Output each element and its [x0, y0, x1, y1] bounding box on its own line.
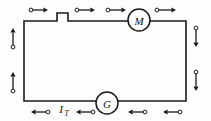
arrow-tail-dot [11, 89, 15, 93]
circuit-component-group: MG [96, 9, 150, 114]
current-arrow-right-1 [193, 70, 198, 91]
arrow-tail-dot [143, 110, 147, 114]
total-current-label: IT [58, 103, 69, 118]
arrow-tail-dot [29, 8, 33, 12]
total-current-base: I [58, 103, 64, 115]
circuit-canvas: MG IT [0, 0, 211, 121]
generator-symbol: G [96, 92, 118, 114]
arrow-head [90, 7, 95, 12]
current-arrow-bottom-3 [163, 109, 182, 114]
current-arrow-left-1 [10, 72, 15, 93]
current-arrow-bottom-0 [31, 109, 50, 114]
motor-label: M [133, 15, 144, 27]
total-current-subscript: T [65, 109, 70, 118]
generator-label: G [103, 98, 111, 110]
arrow-head [121, 7, 126, 12]
arrow-tail-dot [91, 110, 95, 114]
current-arrow-top-3 [155, 7, 176, 12]
arrow-head [43, 7, 48, 12]
arrow-head [10, 28, 15, 33]
arrow-tail-dot [46, 110, 50, 114]
arrow-head [193, 86, 198, 91]
current-arrow-top-0 [29, 7, 48, 12]
arrow-tail-dot [75, 8, 79, 12]
arrow-tail-dot [11, 45, 15, 49]
loop-wire-path [24, 13, 186, 101]
arrow-tail-dot [194, 26, 198, 30]
arrow-head [76, 109, 81, 114]
current-arrow-left-0 [10, 28, 15, 49]
arrow-tail-dot [106, 8, 110, 12]
current-arrow-bottom-1 [76, 109, 95, 114]
arrow-tail-dot [178, 110, 182, 114]
arrow-tail-dot [155, 8, 159, 12]
circuit-wire-loop [24, 13, 186, 101]
circuit-diagram-figure: MG IT [0, 0, 211, 121]
current-arrow-right-0 [193, 26, 198, 47]
motor-symbol: M [128, 9, 150, 31]
arrow-tail-dot [194, 70, 198, 74]
arrow-head [10, 72, 15, 77]
current-arrow-top-1 [75, 7, 95, 12]
arrow-head [163, 109, 168, 114]
arrow-head [171, 7, 176, 12]
arrow-head [128, 109, 133, 114]
arrow-head [193, 42, 198, 47]
current-arrow-bottom-2 [128, 109, 147, 114]
arrow-head [31, 109, 36, 114]
circuit-label-group: IT [58, 103, 69, 118]
current-arrow-top-2 [106, 7, 126, 12]
